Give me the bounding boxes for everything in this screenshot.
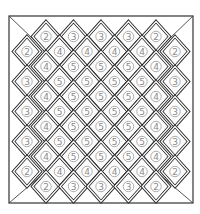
cell-number: 5 bbox=[98, 122, 104, 132]
cell-number: 5 bbox=[57, 137, 63, 147]
cell-number: 5 bbox=[139, 107, 145, 117]
cell-number: 5 bbox=[71, 122, 77, 132]
cell-number: 3 bbox=[172, 107, 178, 117]
cell-number: 5 bbox=[112, 77, 118, 87]
cell-number: 5 bbox=[126, 122, 132, 132]
cell-number: 4 bbox=[112, 47, 118, 57]
cell-number: 4 bbox=[153, 92, 159, 102]
cell-number: 5 bbox=[98, 152, 104, 162]
cell-number: 3 bbox=[24, 107, 30, 117]
cell-number: 5 bbox=[71, 62, 77, 72]
cell-number: 4 bbox=[84, 167, 90, 177]
cell-number: 3 bbox=[98, 182, 104, 192]
cell-number: 2 bbox=[153, 182, 159, 192]
cell-number: 2 bbox=[24, 47, 30, 57]
cell-number: 3 bbox=[71, 182, 77, 192]
cell-number: 5 bbox=[84, 107, 90, 117]
cell-number: 2 bbox=[172, 47, 178, 57]
cell-number: 4 bbox=[112, 167, 118, 177]
cell-number: 2 bbox=[24, 167, 30, 177]
cell-number: 5 bbox=[98, 92, 104, 102]
cell-number: 5 bbox=[71, 92, 77, 102]
cell-number: 5 bbox=[57, 77, 63, 87]
cell-number: 3 bbox=[126, 182, 132, 192]
cell-number: 2 bbox=[43, 32, 49, 42]
cell-number: 4 bbox=[153, 152, 159, 162]
cell-number: 2 bbox=[153, 32, 159, 42]
cell-number: 4 bbox=[43, 122, 49, 132]
puzzle-board: 2333224444245554355553455543555534555435… bbox=[0, 0, 200, 214]
cell-number: 3 bbox=[24, 77, 30, 87]
cell-number: 4 bbox=[57, 47, 63, 57]
cell-number: 4 bbox=[84, 47, 90, 57]
cell-number: 5 bbox=[139, 77, 145, 87]
cell-number: 4 bbox=[139, 167, 145, 177]
cell-number: 4 bbox=[153, 122, 159, 132]
cell-number: 5 bbox=[57, 107, 63, 117]
cell-number: 5 bbox=[126, 92, 132, 102]
cell-number: 5 bbox=[112, 107, 118, 117]
cell-number: 3 bbox=[24, 137, 30, 147]
cell-number: 5 bbox=[71, 152, 77, 162]
cell-number: 4 bbox=[43, 92, 49, 102]
cell-number: 5 bbox=[98, 62, 104, 72]
cell-number: 3 bbox=[172, 137, 178, 147]
cell-number: 2 bbox=[43, 182, 49, 192]
cell-number: 5 bbox=[126, 152, 132, 162]
cell-number: 5 bbox=[84, 77, 90, 87]
cell-number: 3 bbox=[98, 32, 104, 42]
cell-number: 5 bbox=[112, 137, 118, 147]
cell-number: 3 bbox=[126, 32, 132, 42]
cell-number: 2 bbox=[172, 167, 178, 177]
cell-number: 4 bbox=[43, 152, 49, 162]
cell-number: 3 bbox=[71, 32, 77, 42]
diamond-grid: 2333224444245554355553455543555534555435… bbox=[14, 22, 189, 202]
cell-number: 5 bbox=[139, 137, 145, 147]
cell-number: 5 bbox=[84, 137, 90, 147]
cell-number: 5 bbox=[126, 62, 132, 72]
cell-number: 4 bbox=[139, 47, 145, 57]
cell-number: 4 bbox=[153, 62, 159, 72]
cell-number: 4 bbox=[57, 167, 63, 177]
cell-number: 3 bbox=[172, 77, 178, 87]
cell-number: 4 bbox=[43, 62, 49, 72]
